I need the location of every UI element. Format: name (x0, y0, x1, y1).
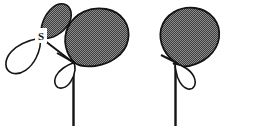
sulfur-atom-label: S (35, 28, 47, 43)
figure-background (0, 0, 278, 133)
orbital-diagram-canvas: S (0, 0, 278, 133)
sulfur-label-text: S (38, 30, 44, 42)
orbital-diagram-figure: S (0, 0, 278, 133)
